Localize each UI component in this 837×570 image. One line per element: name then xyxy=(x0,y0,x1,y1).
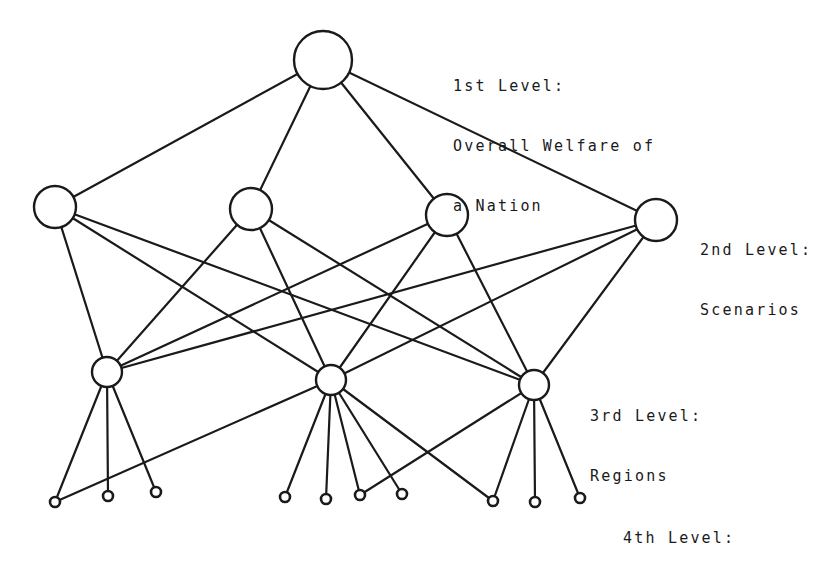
level-1-label-line-2: Overall Welfare of xyxy=(453,136,655,156)
edge-s1-r1 xyxy=(55,207,107,372)
project-node-p2 xyxy=(103,491,113,501)
level-4-label: 4th Level: Projects in Regions xyxy=(623,488,747,570)
project-node-p7 xyxy=(397,489,407,499)
region-node-r1 xyxy=(92,357,122,387)
project-node-p3 xyxy=(151,487,161,497)
project-node-p5 xyxy=(321,494,331,504)
level-4-label-line-1: 4th Level: xyxy=(623,528,747,548)
edge-r3-p10 xyxy=(534,385,580,498)
edge-r2-p5 xyxy=(326,380,331,499)
level-1-label: 1st Level: Overall Welfare of a Nation xyxy=(453,36,655,236)
region-node-r3 xyxy=(519,370,549,400)
level-2-label-line-2: Scenarios xyxy=(700,300,812,320)
project-node-p8 xyxy=(488,496,498,506)
edge-r3-p8 xyxy=(493,385,534,501)
edge-r1-p3 xyxy=(107,372,156,492)
project-node-p9 xyxy=(530,497,540,507)
edge-s4-r3 xyxy=(534,220,656,385)
project-node-p6 xyxy=(355,490,365,500)
level-2-label-line-1: 2nd Level: xyxy=(700,240,812,260)
edge-r1-p2 xyxy=(107,372,108,496)
project-node-p1 xyxy=(50,497,60,507)
edge-r2-p7 xyxy=(331,380,402,494)
edge-s3-r3 xyxy=(447,215,534,385)
edge-top-s1 xyxy=(55,60,323,207)
level-3-label-line-1: 3rd Level: xyxy=(590,406,702,426)
level-3-label: 3rd Level: Regions xyxy=(590,366,702,506)
edge-r3-p9 xyxy=(534,385,535,502)
scenario-node-s2 xyxy=(230,188,272,230)
edge-s3-r2 xyxy=(331,215,447,380)
project-node-p10 xyxy=(575,493,585,503)
edge-r3-p6 xyxy=(360,385,534,495)
level-1-label-line-1: 1st Level: xyxy=(453,76,655,96)
edge-s4-r2 xyxy=(331,220,656,380)
project-node-p4 xyxy=(280,492,290,502)
level-2-label: 2nd Level: Scenarios xyxy=(700,200,812,340)
level-1-label-line-3: a Nation xyxy=(453,196,655,216)
nation-node-top xyxy=(294,31,352,89)
level-3-label-line-2: Regions xyxy=(590,466,702,486)
edge-s4-r1 xyxy=(107,220,656,372)
edge-r2-p8 xyxy=(331,380,493,501)
scenario-node-s1 xyxy=(34,186,76,228)
region-node-r2 xyxy=(316,365,346,395)
